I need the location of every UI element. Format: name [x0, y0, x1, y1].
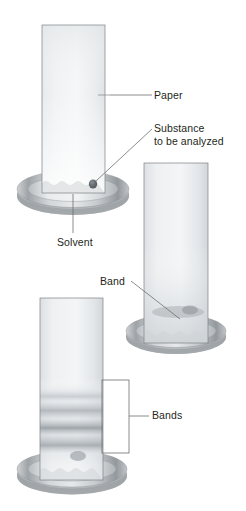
label-band: Band — [100, 275, 125, 288]
stage-1-start — [17, 25, 152, 233]
label-solvent: Solvent — [57, 236, 93, 249]
label-substance: Substance to be analyzed — [154, 122, 244, 147]
stage3-bands — [40, 378, 103, 480]
chromatography-figure: Paper Substance to be analyzed Solvent B… — [0, 0, 246, 511]
bands-bracket — [102, 380, 149, 453]
diagram-canvas — [0, 0, 246, 511]
label-paper: Paper — [154, 89, 183, 102]
stage3-paper-strip — [40, 298, 103, 480]
stage1-paper-strip — [42, 25, 105, 193]
label-substance-line2: to be analyzed — [154, 135, 224, 147]
label-substance-line1: Substance — [154, 122, 205, 134]
label-bands: Bands — [152, 409, 182, 422]
stage-2-developing — [126, 163, 226, 354]
